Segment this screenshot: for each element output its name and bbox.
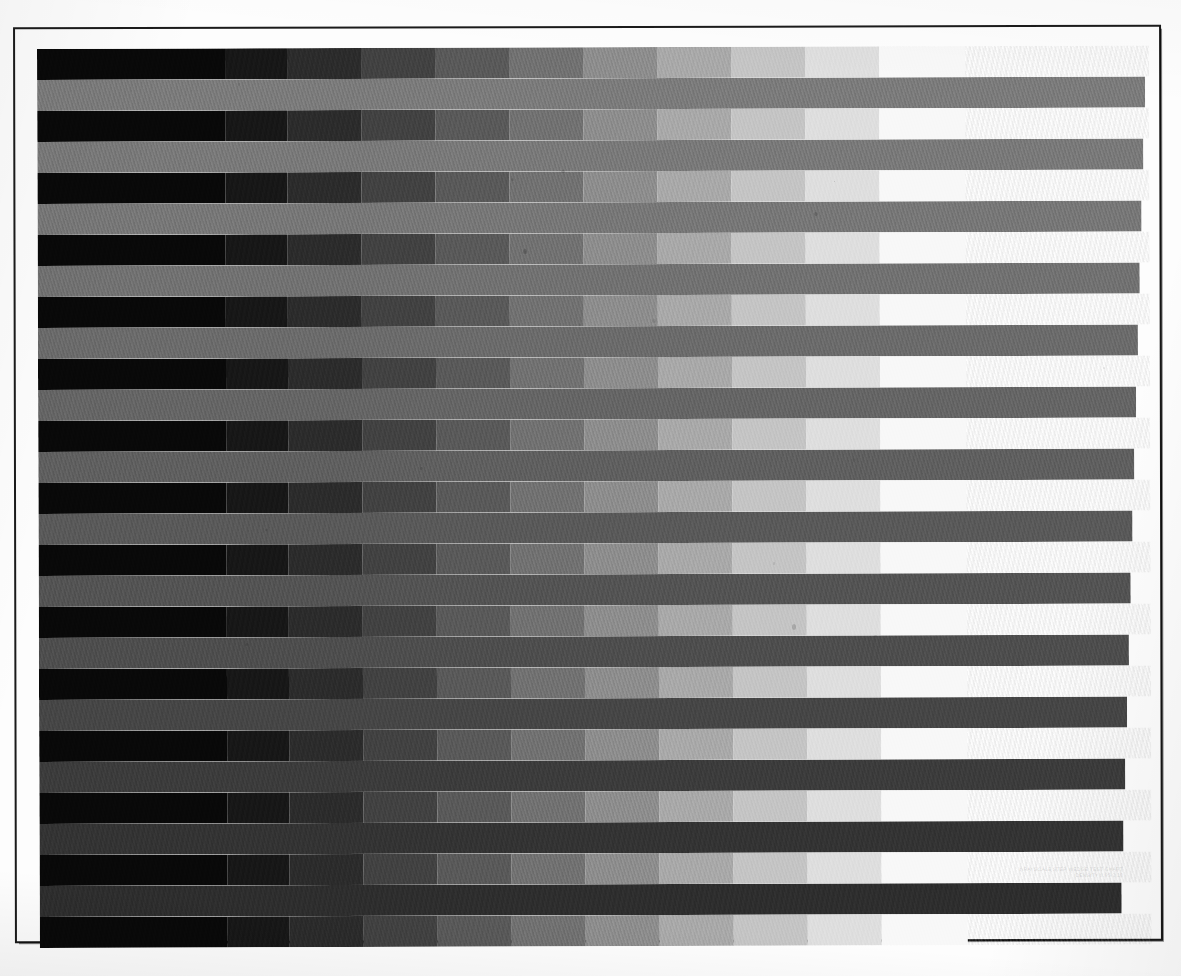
wedge-step-4 [361,48,435,79]
step-wedge-row [38,232,1150,266]
wedge-step-9 [732,481,806,512]
wedge-step-9 [731,47,805,78]
wedge-step-3 [288,358,362,389]
wedge-step-7 [583,171,657,202]
density-band [40,883,1122,917]
step-wedge-row [40,914,1152,948]
wedge-step-10 [806,294,880,325]
wedge-step-8 [659,667,733,698]
wedge-step-2 [226,296,288,327]
step-wedge [39,728,1151,762]
wedge-step-10 [807,542,881,573]
wedge-step-5 [435,110,509,141]
wedge-step-5 [437,668,511,699]
wedge-step-8 [659,605,733,636]
step-wedge [38,356,1150,390]
step-wedge-row [37,46,1149,80]
wedge-step-4 [361,110,435,141]
step-wedge-row [39,542,1151,576]
wedge-step-3 [289,606,363,637]
wedge-step-2 [227,668,289,699]
scanned-page: GRAYSCALE STEP WEDGE TEST CHART DENSITY … [0,0,1181,976]
wedge-step-10 [806,356,880,387]
density-band-row [38,449,1134,483]
step-wedge [38,232,1150,266]
wedge-step-8 [660,915,734,946]
step-wedge-row [38,294,1150,328]
step-wedge-row [38,418,1150,452]
wedge-step-8 [658,233,732,264]
wedge-step-6 [511,667,585,698]
wedge-step-6 [510,419,584,450]
wedge-step-1 [39,668,227,700]
wedge-step-6 [509,171,583,202]
density-band-row [38,511,1132,545]
wedge-step-11 [880,232,966,263]
wedge-step-6 [510,481,584,512]
wedge-step-7 [584,233,658,264]
wedge-step-2 [225,172,287,203]
wedge-step-9 [733,543,807,574]
wedge-step-6 [512,853,586,884]
wedge-step-11 [881,542,967,573]
step-wedge [39,542,1151,576]
wedge-step-9 [732,419,806,450]
step-wedge-row [38,480,1150,514]
wedge-step-1 [39,606,227,638]
step-wedge-row [37,108,1149,142]
density-band [39,697,1127,731]
density-band [37,139,1143,173]
wedge-step-10 [805,46,879,77]
step-wedge [38,418,1150,452]
wedge-step-7 [586,915,660,946]
wedge-step-10 [807,728,881,759]
wedge-step-1 [40,854,228,886]
wedge-step-11 [880,418,966,449]
wedge-step-1 [39,544,227,576]
wedge-step-10 [808,914,882,945]
density-band-row [37,77,1145,111]
wedge-step-1 [37,172,225,204]
wedge-step-4 [362,420,436,451]
step-wedge-row [39,604,1151,638]
wedge-step-3 [289,730,363,761]
step-wedge [37,46,1149,80]
density-band-row [40,883,1122,917]
wedge-step-8 [657,171,731,202]
step-wedge-stack [37,46,1152,921]
wedge-step-11 [879,170,965,201]
wedge-step-1 [38,234,226,266]
wedge-step-9 [732,295,806,326]
wedge-step-9 [733,729,807,760]
wedge-step-11 [879,108,965,139]
wedge-step-11 [882,914,968,945]
wedge-step-7 [584,295,658,326]
wedge-step-6 [512,915,586,946]
wedge-step-10 [807,666,881,697]
wedge-step-7 [583,109,657,140]
wedge-step-11 [881,666,967,697]
wedge-step-10 [806,480,880,511]
step-wedge [37,170,1149,204]
wedge-step-3 [287,48,361,79]
density-band-row [39,759,1125,793]
wedge-step-6 [511,543,585,574]
wedge-step-3 [288,482,362,513]
wedge-step-4 [363,730,437,761]
wedge-step-5 [435,48,509,79]
density-band [37,201,1141,235]
wedge-step-5 [436,420,510,451]
wedge-step-6 [510,233,584,264]
wedge-step-6 [510,295,584,326]
step-wedge [38,480,1150,514]
wedge-step-5 [436,358,510,389]
density-band [38,263,1140,297]
wedge-step-3 [288,296,362,327]
wedge-step-1 [39,792,227,824]
density-band-row [39,821,1123,855]
wedge-step-3 [287,110,361,141]
step-wedge [39,666,1151,700]
wedge-step-8 [659,791,733,822]
wedge-step-5 [437,544,511,575]
wedge-step-5 [437,606,511,637]
